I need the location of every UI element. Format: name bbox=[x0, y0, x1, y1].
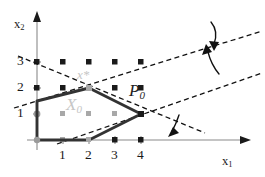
shift-arrow-up-curve bbox=[208, 52, 219, 74]
shift-arrow-down-curve bbox=[211, 22, 216, 44]
lattice-point-0-2 bbox=[34, 85, 40, 91]
shift-arrow-downleft-head bbox=[168, 127, 179, 137]
y-tick-label-1: 1 bbox=[17, 106, 24, 120]
shift-arrow-up-head bbox=[202, 44, 212, 55]
x-tick-label-4: 4 bbox=[137, 148, 144, 162]
lattice-point-3-3 bbox=[112, 59, 118, 65]
polytope-label: P0 bbox=[129, 82, 145, 99]
lattice-point-2-1 bbox=[86, 111, 91, 116]
lattice-point-1-2 bbox=[60, 85, 66, 91]
y-axis-arrowhead bbox=[33, 11, 41, 22]
x-axis-arrowhead bbox=[240, 136, 251, 144]
lattice-point-3-2 bbox=[112, 85, 118, 91]
vertex-left-origin bbox=[34, 137, 40, 143]
x-tick-label-3: 3 bbox=[111, 148, 118, 162]
y-axis-label: x2 bbox=[14, 18, 25, 31]
lattice-point-3-1 bbox=[112, 111, 117, 116]
lattice-point-1-3 bbox=[60, 59, 66, 65]
lattice-point-3-0 bbox=[112, 137, 118, 143]
y-tick-label-3: 3 bbox=[17, 54, 24, 68]
x-tick-label-1: 1 bbox=[59, 148, 66, 162]
vertex-x-star bbox=[86, 85, 92, 91]
relaxation-label: X0 bbox=[66, 96, 82, 113]
lattice-point-4-0 bbox=[138, 137, 144, 143]
vertex-p0-right bbox=[138, 111, 144, 117]
lattice-point-2-3 bbox=[86, 59, 92, 65]
figure-root: x2 x1 3 2 1 1 2 3 4 x* X0 P0 bbox=[0, 0, 265, 177]
x-tick-label-2: 2 bbox=[85, 148, 92, 162]
x-axis-label: x1 bbox=[222, 155, 233, 168]
shift-arrows-group bbox=[168, 22, 219, 137]
lattice-point-4-3 bbox=[138, 59, 144, 65]
optimum-label: x* bbox=[77, 68, 89, 81]
y-tick-label-2: 2 bbox=[17, 80, 24, 94]
shift-arrow-down-head bbox=[209, 41, 219, 51]
vertex-bottom-2-0 bbox=[86, 137, 91, 142]
lattice-point-1-1 bbox=[60, 111, 65, 116]
